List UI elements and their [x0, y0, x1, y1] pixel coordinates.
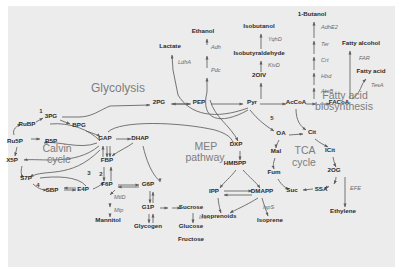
metabolite-fattyacid: Fatty acid — [357, 67, 386, 74]
metabolite-suc: Suc — [286, 186, 298, 193]
metabolite-gap: GAP — [98, 134, 111, 141]
enzyme-adh: Adh — [210, 44, 221, 50]
metabolite-icit: ICit — [325, 146, 335, 153]
step-number-step5: 5 — [270, 115, 274, 121]
pathway-label-tca1: TCA — [295, 144, 316, 156]
pathway-diagram-page: GlycolysisCalvincycleMEPpathwayTCAcycleF… — [0, 0, 403, 273]
metabolite-ethanol: Ethanol — [192, 27, 215, 34]
enzyme-adhe2: AdhE2 — [320, 24, 339, 30]
metabolite-cit: Cit — [308, 128, 316, 135]
enzyme-atob: AtoB — [320, 88, 333, 94]
enzyme-kivd: KivD — [268, 62, 280, 68]
metabolite-sucrose: Sucrose — [179, 203, 204, 210]
metabolite-fructose: Fructose — [178, 235, 205, 242]
enzyme-efe: EFE — [350, 185, 361, 191]
metabolite-lactate: Lactate — [159, 42, 181, 49]
metabolite-oa: OA — [276, 129, 286, 136]
metabolite-ethylene: Ethylene — [330, 207, 356, 214]
pathway-label-calvin2: cycle — [47, 153, 71, 165]
step-number-step3: 3 — [87, 170, 91, 176]
enzyme-crt: Crt — [321, 57, 329, 63]
metabolite-pyr: Pyr — [247, 98, 258, 105]
metabolite-2og: 2OG — [327, 166, 340, 173]
metabolite-e4p: E4P — [77, 185, 89, 192]
enzyme-far: FAR — [359, 55, 370, 61]
metabolite-ssa: SSA — [315, 185, 328, 192]
metabolite-dxp: DXP — [230, 140, 243, 147]
metabolite-facoa: FACoA — [329, 98, 350, 105]
step-number-step4: 4 — [36, 182, 40, 188]
metabolite-fattyalcohol: Fatty alcohol — [342, 39, 380, 46]
metabolite-3pg: 3PG — [45, 112, 58, 119]
metabolite-glucose: Glucose — [179, 222, 204, 229]
step-number-step2: 2 — [99, 171, 103, 177]
metabolite-isobutyraldehyde: Isobutyraldehyde — [233, 49, 285, 56]
metabolite-fbp: FBP — [101, 156, 113, 163]
enzyme-isps: IspS — [263, 204, 274, 210]
enzyme-mtp: Mtp — [114, 207, 123, 213]
metabolite-f6p: F6P — [101, 180, 112, 187]
metabolite-g6p: G6P — [142, 180, 154, 187]
metabolite-isoprene: Isoprene — [257, 216, 283, 223]
metabolite-2pg: 2PG — [153, 98, 166, 105]
metabolite-rubp: RuBP — [19, 120, 36, 127]
metabolite-sbp: SBP — [46, 186, 59, 193]
metabolite-dhap: DHAP — [131, 134, 149, 141]
metabolite-glycogen: Glycogen — [134, 222, 162, 229]
metabolite-mal: Mal — [271, 147, 282, 154]
metabolite-g1p: G1P — [142, 203, 154, 210]
metabolite-s7p: S7P — [20, 174, 32, 181]
pathway-label-tca2: cycle — [292, 156, 316, 168]
enzyme-inva: InvA — [199, 214, 210, 220]
pathway-label-glycolysis: Glycolysis — [91, 81, 145, 95]
metabolite-accoa: AcCoA — [286, 98, 307, 105]
enzyme-mtld: MtlD — [114, 194, 126, 200]
metabolite-fum: Fum — [267, 168, 281, 175]
pathway-network: GlycolysisCalvincycleMEPpathwayTCAcycleF… — [0, 0, 403, 273]
enzyme-yqhd: YqhD — [268, 36, 282, 42]
metabolite-hmbpp: HMBPP — [224, 159, 246, 166]
metabolite-bpg: BPG — [72, 121, 86, 128]
metabolite-2oiv: 2OIV — [252, 71, 267, 78]
metabolite-ru5p: Ru5P — [7, 137, 23, 144]
metabolite-r5p: R5P — [45, 137, 57, 144]
metabolite-dmapp: DMAPP — [251, 187, 273, 194]
pathway-label-mep2: pathway — [185, 151, 225, 163]
metabolite-isobutanol: Isobutanol — [243, 22, 275, 29]
metabolite-x5p: X5P — [6, 156, 18, 163]
metabolite-pep: PEP — [193, 98, 205, 105]
metabolite-ipp: IPP — [209, 187, 219, 194]
enzyme-tesa: TesA — [371, 82, 384, 88]
metabolite-butanol1: 1-Butanol — [298, 10, 327, 17]
enzyme-pdc: Pdc — [211, 67, 221, 73]
enzyme-ldha: LdhA — [178, 59, 191, 65]
step-number-step1: 1 — [39, 108, 43, 114]
enzyme-hbd: Hbd — [321, 73, 332, 79]
metabolite-mannitol: Mannitol — [95, 216, 121, 223]
enzyme-ter: Ter — [321, 41, 330, 47]
